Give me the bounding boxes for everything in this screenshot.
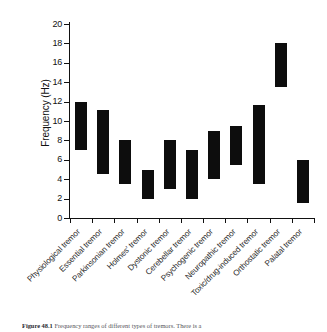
x-tick-mark: [314, 219, 315, 223]
y-tick-mark: [64, 218, 69, 219]
plot-area: [70, 24, 314, 218]
range-bar: [142, 170, 154, 199]
range-bar: [186, 150, 198, 199]
y-tick-mark: [64, 140, 69, 141]
y-tick-label: 2: [40, 194, 62, 203]
y-tick-mark: [64, 121, 69, 122]
y-tick-label: 12: [40, 97, 62, 106]
y-tick-mark: [64, 199, 69, 200]
range-bar: [297, 160, 309, 204]
y-tick-mark: [64, 82, 69, 83]
y-tick-label: 18: [40, 39, 62, 48]
y-tick-label: 4: [40, 175, 62, 184]
y-tick-mark: [64, 43, 69, 44]
y-tick-label: 16: [40, 58, 62, 67]
y-tick-label: 0: [40, 214, 62, 223]
y-tick-mark: [64, 179, 69, 180]
x-tick-mark: [114, 219, 115, 223]
range-bar: [253, 105, 265, 184]
y-tick-label: 6: [40, 155, 62, 164]
x-tick-mark: [270, 219, 271, 223]
y-tick-mark: [64, 63, 69, 64]
range-bar: [230, 126, 242, 165]
range-bar: [75, 102, 87, 151]
x-tick-mark: [137, 219, 138, 223]
y-tick-label: 8: [40, 136, 62, 145]
range-bar: [275, 43, 287, 87]
range-bar: [119, 140, 131, 184]
x-tick-mark: [225, 219, 226, 223]
range-bar: [208, 131, 220, 180]
x-tick-mark: [292, 219, 293, 223]
range-bar: [164, 140, 176, 189]
figure-caption-label: Figure 48.1: [22, 322, 53, 329]
range-bar: [97, 110, 109, 174]
y-tick-label: 14: [40, 78, 62, 87]
x-tick-mark: [247, 219, 248, 223]
y-tick-mark: [64, 102, 69, 103]
x-tick-mark: [70, 219, 71, 223]
y-tick-label: 20: [40, 20, 62, 29]
figure-caption: Figure 48.1 Frequency ranges of differen…: [22, 322, 312, 330]
x-tick-mark: [92, 219, 93, 223]
x-tick-mark: [203, 219, 204, 223]
x-tick-mark: [159, 219, 160, 223]
y-tick-label: 10: [40, 117, 62, 126]
figure-container: Frequency (Hz) 20181614121086420 Physiol…: [0, 0, 327, 332]
y-tick-mark: [64, 24, 69, 25]
x-tick-mark: [181, 219, 182, 223]
y-tick-mark: [64, 160, 69, 161]
figure-caption-text: Frequency ranges of different types of t…: [54, 322, 201, 329]
x-axis-line: [69, 218, 315, 219]
